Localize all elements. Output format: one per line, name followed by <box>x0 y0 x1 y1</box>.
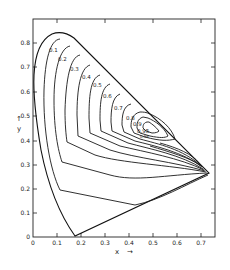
contour-label: 0.3 <box>70 66 79 72</box>
y-axis-title: y <box>17 125 21 133</box>
x-tick-label: 0.4 <box>124 239 134 246</box>
x-tick-label: 0.5 <box>148 239 158 246</box>
y-tick-label: 0.2 <box>20 185 30 192</box>
contour-0.1 <box>44 39 208 205</box>
x-axis: 0 0.1 0.2 0.3 0.4 0.5 0.6 0.7 x → <box>31 19 206 256</box>
y-tick-label: 0 <box>26 233 30 240</box>
contour-label: 0.2 <box>58 56 67 62</box>
contour-labels: 0.1 0.2 0.3 0.4 0.5 0.6 0.7 0.8 0.9 0.95… <box>49 47 150 139</box>
contour-label: 0.5 <box>93 82 102 88</box>
x-tick-label: 0.2 <box>76 239 86 246</box>
y-tick-label: 0.6 <box>20 88 30 95</box>
contour-label: 0.6 <box>103 93 112 99</box>
plot-frame <box>33 19 215 237</box>
y-axis-arrow: ↑ <box>16 115 22 123</box>
x-axis-title: x <box>115 248 119 256</box>
x-tick-label: 0.6 <box>172 239 182 246</box>
x-tick-label: 0.1 <box>52 239 62 246</box>
contour-label: 0.4 <box>82 74 91 80</box>
y-tick-label: 0.8 <box>20 39 30 46</box>
x-tick-label: 0.7 <box>196 239 206 246</box>
contour-label: 0.9 <box>133 121 142 127</box>
y-tick-label: 0.7 <box>20 63 30 70</box>
contour-label: 0.98 <box>140 134 149 139</box>
y-tick-label: 0.1 <box>20 209 30 216</box>
x-tick-label: 0 <box>31 239 35 246</box>
y-tick-label: 0.4 <box>20 137 30 144</box>
contour-lines <box>44 39 208 205</box>
chromaticity-chart: 0 0.1 0.2 0.3 0.4 0.5 0.6 0.7 x → 0 0.1 … <box>0 0 230 270</box>
contour-0.8 <box>122 104 201 166</box>
contour-label: 0.1 <box>49 47 58 53</box>
spectral-locus <box>34 33 209 236</box>
x-axis-arrow: → <box>127 248 133 256</box>
y-tick-label: 0.3 <box>20 161 30 168</box>
contour-label: 0.7 <box>114 105 123 111</box>
x-tick-label: 0.3 <box>100 239 110 246</box>
